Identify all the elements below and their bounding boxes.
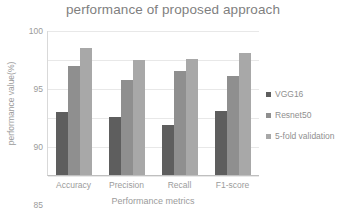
x-axis-tick: Precision <box>100 180 153 190</box>
legend-item[interactable]: 5-fold validation <box>266 131 335 141</box>
legend-swatch-icon <box>266 92 271 97</box>
x-axis-tick: Accuracy <box>47 180 100 190</box>
bar[interactable] <box>109 117 121 175</box>
bar-group <box>206 31 259 175</box>
bar-groups <box>48 31 259 175</box>
y-axis-tick: 95 <box>34 84 43 94</box>
legend-swatch-icon <box>266 134 271 139</box>
bar-group <box>48 31 101 175</box>
bar[interactable] <box>162 125 174 175</box>
y-axis-tick: 85 <box>34 200 43 210</box>
bar[interactable] <box>80 48 92 175</box>
bar[interactable] <box>133 60 145 175</box>
legend: VGG16Resnet505-fold validation <box>266 89 335 141</box>
legend-label: VGG16 <box>275 89 303 99</box>
y-axis-tick: 90 <box>34 142 43 152</box>
bar[interactable] <box>68 66 80 175</box>
plot-area: 1009590858075 <box>47 31 259 176</box>
chart-title: performance of proposed approach <box>58 2 288 17</box>
legend-label: Resnet50 <box>275 110 311 120</box>
x-axis-tick-labels: AccuracyPrecisionRecallF1-score <box>47 180 259 190</box>
x-axis-label: Performance metrics <box>47 196 259 206</box>
bar[interactable] <box>121 80 133 175</box>
legend-item[interactable]: Resnet50 <box>266 110 335 120</box>
bar[interactable] <box>174 71 186 175</box>
y-axis-tick: 100 <box>29 26 43 36</box>
bar[interactable] <box>239 53 251 175</box>
bar[interactable] <box>227 76 239 175</box>
y-axis-label: performance value(%) <box>6 31 18 176</box>
legend-item[interactable]: VGG16 <box>266 89 335 99</box>
gridline: 75 <box>48 176 259 177</box>
bar-group <box>101 31 154 175</box>
x-axis-tick: Recall <box>153 180 206 190</box>
bar[interactable] <box>186 59 198 175</box>
bar[interactable] <box>56 112 68 175</box>
bar[interactable] <box>215 111 227 176</box>
x-axis-tick: F1-score <box>206 180 259 190</box>
bar-group <box>154 31 207 175</box>
legend-swatch-icon <box>266 113 271 118</box>
chart-container: performance of proposed approach 1009590… <box>0 0 355 213</box>
legend-label: 5-fold validation <box>275 131 335 141</box>
